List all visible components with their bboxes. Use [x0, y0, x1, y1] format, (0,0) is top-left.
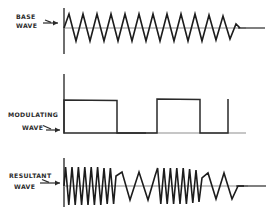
modulating-wave-label-line2: WAVE — [22, 124, 43, 131]
base-wave-pointer — [43, 20, 58, 25]
modulating-wave-pointer — [43, 126, 60, 133]
resultant-wave-label-line2: WAVE — [14, 183, 35, 190]
base-wave-label-line1: BASE — [16, 13, 36, 20]
base-wave-label-line2: WAVE — [16, 22, 37, 29]
resultant-wave-label-line1: RESULTANT — [9, 172, 52, 179]
modulating-wave-label-line1: MODULATING — [8, 111, 58, 118]
panel-resultant-wave: RESULTANT WAVE — [9, 158, 266, 207]
panel-base-wave: BASE WAVE — [16, 8, 265, 54]
resultant-wave-pointer — [40, 180, 60, 186]
panel-modulating-wave: MODULATING WAVE — [8, 74, 246, 134]
modulating-wave-path — [64, 99, 228, 133]
fm-waveform-diagram: BASE WAVE MODULATING WAVE RESULTANT WAVE — [0, 0, 271, 219]
